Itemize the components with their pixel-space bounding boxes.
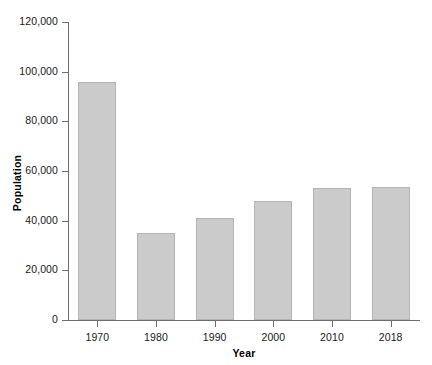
x-axis-tick-label: 2010 — [302, 331, 362, 343]
y-axis-tick-label: 120,000 — [0, 15, 58, 27]
y-axis-title-text: Population — [11, 154, 23, 210]
y-axis-tick-label: 20,000 — [0, 263, 58, 275]
x-axis-tick — [156, 321, 157, 327]
x-axis-tick-label: 1970 — [67, 331, 127, 343]
bar-1990 — [196, 218, 234, 320]
x-axis-tick — [97, 321, 98, 327]
x-axis-tick — [391, 321, 392, 327]
bar-2018 — [372, 187, 410, 320]
y-axis-title: Population — [8, 0, 26, 365]
x-axis-tick-label: 1980 — [126, 331, 186, 343]
bar-1970 — [78, 82, 116, 320]
x-axis-tick-label: 2000 — [243, 331, 303, 343]
x-axis-tick — [273, 321, 274, 327]
bar-chart-figure: Population 020,00040,00060,00080,000100,… — [0, 0, 432, 365]
bar-1980 — [137, 233, 175, 320]
y-axis-tick-label: 60,000 — [0, 164, 58, 176]
y-axis-tick — [62, 320, 68, 321]
y-axis-tick-label: 0 — [0, 313, 58, 325]
y-axis-tick-label: 80,000 — [0, 114, 58, 126]
bar-2010 — [313, 188, 351, 320]
x-axis-title: Year — [68, 347, 420, 359]
plot-area — [68, 22, 420, 320]
x-axis-tick — [332, 321, 333, 327]
y-axis-tick-label: 40,000 — [0, 214, 58, 226]
y-axis-tick-label: 100,000 — [0, 65, 58, 77]
x-axis-tick-label: 2018 — [361, 331, 421, 343]
x-axis-tick-label: 1990 — [185, 331, 245, 343]
x-axis-tick — [215, 321, 216, 327]
bar-2000 — [254, 201, 292, 320]
x-axis-line — [68, 320, 420, 321]
